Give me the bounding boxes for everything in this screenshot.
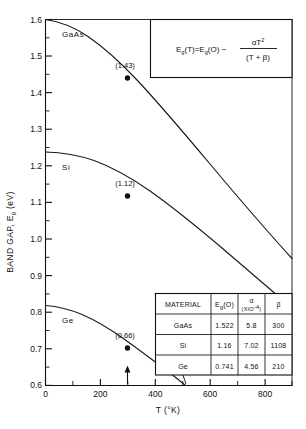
marker-label-gaas: (1.43) bbox=[115, 61, 135, 70]
table-cell-eg0: 0.741 bbox=[215, 363, 234, 370]
table-header-alpha-unit: (XIO-4) bbox=[242, 304, 262, 312]
equation-lhs: Eg(T)=Eg(O) − bbox=[176, 45, 227, 55]
y-axis-title-main: BAND GAP, E bbox=[5, 215, 15, 273]
x-axis-title: T (°K) bbox=[156, 405, 181, 415]
chart-figure: 1.6 1.5 1.4 1.3 1.2 1.1 1.0 0.9 0.8 0.7 … bbox=[0, 0, 306, 429]
y-axis-title-unit: (eV) bbox=[5, 191, 15, 209]
y-tick-label: 0.7 bbox=[30, 344, 42, 354]
marker-label-si: (1.12) bbox=[115, 179, 135, 188]
y-tick-label: 0.6 bbox=[30, 380, 42, 390]
x-tick-label: 0 bbox=[43, 389, 48, 399]
y-tick-label: 0.9 bbox=[30, 271, 42, 281]
table-cell-alpha: 7.02 bbox=[244, 342, 258, 349]
y-tick-label: 1.2 bbox=[30, 161, 42, 171]
table-header-beta: β bbox=[276, 301, 280, 309]
table-cell-beta: 1108 bbox=[271, 342, 287, 349]
table-cell-beta: 300 bbox=[272, 322, 284, 329]
y-tick-label: 1.6 bbox=[30, 15, 42, 25]
curve-label-ge: Ge bbox=[62, 316, 74, 325]
y-tick-label: 0.8 bbox=[30, 307, 42, 317]
table-cell-alpha: 4.56 bbox=[244, 363, 258, 370]
y-tick-label: 1.1 bbox=[30, 197, 42, 207]
table-cell-material: GaAs bbox=[174, 322, 193, 329]
table-cell-beta: 210 bbox=[272, 363, 284, 370]
x-tick-label: 200 bbox=[93, 389, 107, 399]
table-cell-eg0: 1.16 bbox=[217, 342, 231, 349]
equation-box: Eg(T)=Eg(O) − αT2 (T + β) bbox=[151, 20, 293, 78]
x-tick-label: 400 bbox=[148, 389, 162, 399]
y-tick-label: 1.4 bbox=[30, 88, 42, 98]
x-tick-label: 600 bbox=[203, 389, 217, 399]
table-cell-material: Ge bbox=[178, 363, 188, 370]
equation-denominator: (T + β) bbox=[246, 53, 270, 62]
table-cell-material: Si bbox=[180, 342, 187, 349]
table-header-material: MATERIAL bbox=[165, 301, 201, 308]
material-parameter-table: MATERIAL Eg(O) α (XIO-4) β GaAs 1.522 5.… bbox=[156, 294, 293, 376]
y-tick-label: 1.3 bbox=[30, 124, 42, 134]
band-gap-chart-svg: 1.6 1.5 1.4 1.3 1.2 1.1 1.0 0.9 0.8 0.7 … bbox=[0, 0, 306, 429]
x-tick-label: 800 bbox=[258, 389, 272, 399]
y-axis-title: BAND GAP, Eg (eV) bbox=[5, 191, 16, 273]
table-header-alpha: α bbox=[249, 297, 253, 304]
table-cell-eg0: 1.522 bbox=[215, 322, 234, 329]
marker-ge-300k bbox=[125, 345, 130, 350]
curve-label-gaas: GaAs bbox=[62, 30, 84, 39]
svg-text:T (°K): T (°K) bbox=[156, 405, 181, 415]
table-cell-alpha: 5.8 bbox=[246, 322, 256, 329]
marker-si-300k bbox=[125, 193, 130, 198]
curve-label-si: Si bbox=[62, 163, 70, 172]
y-tick-label: 1.0 bbox=[30, 234, 42, 244]
marker-label-ge: (0.66) bbox=[115, 331, 135, 340]
y-tick-label: 1.5 bbox=[30, 51, 42, 61]
marker-gaas-300k bbox=[125, 75, 130, 80]
svg-text:BAND GAP, Eg (eV): BAND GAP, Eg (eV) bbox=[5, 191, 16, 273]
